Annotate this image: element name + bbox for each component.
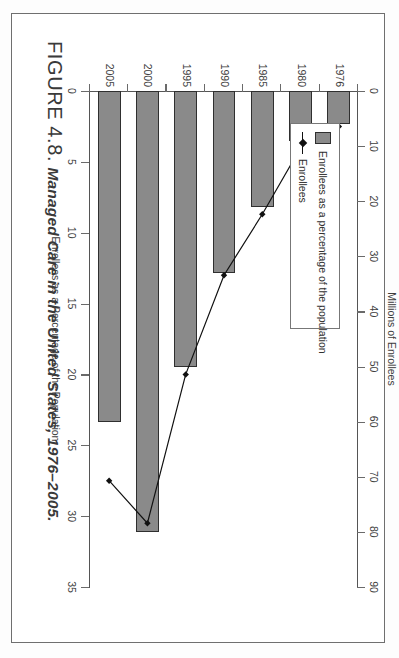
legend-label-percentage: Enrollees as a percentage of the populat… bbox=[317, 151, 329, 354]
figure-stage: FIGURE 4.8. Managed Care in the United S… bbox=[24, 27, 376, 629]
data-point-marker bbox=[183, 371, 189, 377]
line-diamond-icon bbox=[296, 132, 310, 154]
legend-item-line: Enrollees bbox=[293, 132, 313, 320]
bar-swatch-icon bbox=[315, 132, 331, 144]
data-point-marker bbox=[259, 211, 265, 217]
data-point-marker bbox=[221, 272, 227, 278]
chart-legend: Enrollees as a percentage of the populat… bbox=[290, 123, 340, 329]
legend-label-enrollees: Enrollees bbox=[297, 159, 309, 203]
legend-item-bars: Enrollees as a percentage of the populat… bbox=[313, 132, 333, 320]
rotated-figure-wrap: FIGURE 4.8. Managed Care in the United S… bbox=[0, 0, 399, 658]
millions-axis-title: Millions of Enrollees bbox=[386, 27, 398, 651]
figure-page: FIGURE 4.8. Managed Care in the United S… bbox=[0, 0, 399, 658]
